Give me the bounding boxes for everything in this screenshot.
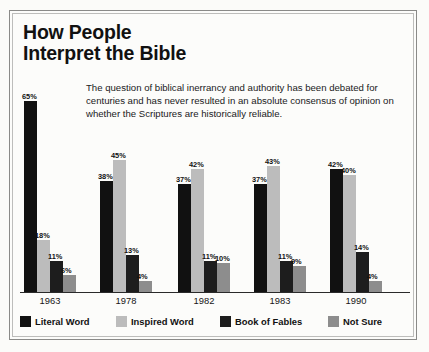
x-axis-tick-label: 1978 [98,295,154,306]
bar: 42% [330,169,343,293]
bar-value-label: 43% [265,158,287,166]
legend-swatch-icon [116,316,127,327]
x-axis-tick-label: 1963 [22,295,78,306]
bar: 37% [254,184,267,293]
legend-item[interactable]: Book of Fables [220,316,302,327]
bar-value-label: 18% [35,232,57,240]
x-axis-baseline [20,292,410,293]
chart-legend: Literal WordInspired WordBook of FablesN… [20,316,410,330]
legend-item[interactable]: Not Sure [328,316,382,327]
legend-item-label: Not Sure [343,316,382,327]
bar-value-label: 40% [341,167,363,175]
bar-value-label: 42% [189,161,211,169]
legend-swatch-icon [328,316,339,327]
bar-value-label: 4% [137,273,159,281]
bar-value-label: 14% [354,244,376,252]
bar-value-label: 13% [124,247,146,255]
x-axis-tick-label: 1983 [252,295,308,306]
bar-value-label: 4% [367,273,389,281]
bar: 42% [191,169,204,293]
bar: 45% [113,160,126,293]
bar-value-label: 9% [291,258,313,266]
plot-area: 65%18%11%6%38%45%13%4%37%42%11%10%37%43%… [20,62,410,293]
bar: 6% [63,275,76,293]
bar: 10% [217,263,230,293]
bar-value-label: 10% [215,255,237,263]
bar-value-label: 45% [111,152,133,160]
legend-item-label: Book of Fables [235,316,302,327]
page-title: How People Interpret the Bible [23,22,323,64]
bar: 18% [37,240,50,293]
bar-value-label: 6% [61,267,83,275]
bar: 11% [204,261,217,293]
x-axis-tick-labels: 19631978198219831990 [20,295,410,309]
legend-swatch-icon [220,316,231,327]
x-axis-tick-label: 1990 [328,295,384,306]
bar: 37% [178,184,191,293]
x-axis-tick-label: 1982 [176,295,232,306]
bar: 9% [293,266,306,293]
legend-item[interactable]: Inspired Word [116,316,194,327]
bar: 43% [267,166,280,293]
chart-figure: How People Interpret the Bible The quest… [0,0,429,352]
bar: 38% [100,181,113,293]
legend-swatch-icon [20,316,31,327]
bar-value-label: 65% [22,93,44,101]
legend-item-label: Literal Word [35,316,90,327]
legend-item-label: Inspired Word [131,316,194,327]
bar: 65% [24,101,37,293]
legend-item[interactable]: Literal Word [20,316,90,327]
bar: 40% [343,175,356,293]
bar-value-label: 11% [48,253,70,261]
